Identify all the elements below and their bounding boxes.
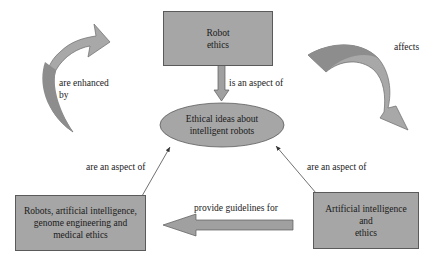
node-text: ethics xyxy=(206,39,229,51)
node-text: Robot xyxy=(206,27,229,39)
node-text: intelligent robots xyxy=(160,125,284,137)
edge-label-affects: affects xyxy=(394,42,419,53)
edge-label-enhanced-by: by xyxy=(59,90,69,101)
node-text: Artificial intelligence xyxy=(325,203,407,215)
edge-label-is-aspect: is an aspect of xyxy=(229,78,283,89)
node-robots-ai-genome: Robots, artificial intelligence, genome … xyxy=(15,195,146,251)
edge-label-left-aspect: are an aspect of xyxy=(86,162,145,173)
left-block-arrow-icon xyxy=(163,214,293,236)
edge-label-enhanced: are enhanced xyxy=(59,78,109,89)
node-ai-ethics: Artificial intelligence and ethics xyxy=(313,192,419,249)
node-text: and xyxy=(325,215,407,227)
node-center-text: Ethical ideas about intelligent robots xyxy=(160,113,284,137)
node-text: ethics xyxy=(325,227,407,239)
curved-arrow-right-icon xyxy=(308,45,408,130)
concept-diagram: Robot ethics Ethical ideas about intelli… xyxy=(0,0,447,266)
node-text: genome engineering and xyxy=(24,217,137,229)
node-robot-ethics: Robot ethics xyxy=(163,11,273,66)
node-text: Robots, artificial intelligence, xyxy=(24,205,137,217)
down-arrow-icon xyxy=(214,65,229,101)
node-text: Ethical ideas about xyxy=(160,113,284,125)
edge-label-guidelines: provide guidelines for xyxy=(194,203,278,214)
connector-left xyxy=(142,147,170,196)
edge-label-right-aspect: are an aspect of xyxy=(307,162,366,173)
node-text: medical ethics xyxy=(24,229,137,241)
